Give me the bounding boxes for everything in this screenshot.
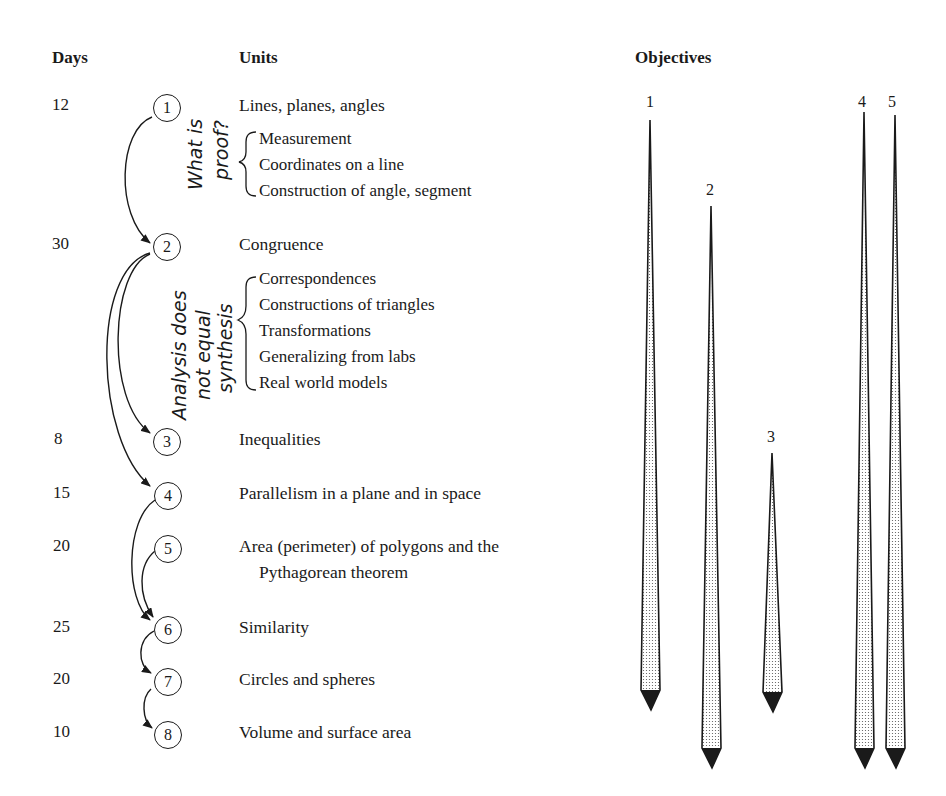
objective-wedge-5 <box>886 115 905 768</box>
objective-wedge-1 <box>641 120 660 710</box>
objective-wedge-4 <box>855 112 874 768</box>
objective-wedge-3 <box>763 453 782 712</box>
objective-wedges <box>0 0 946 796</box>
objective-wedge-2 <box>702 206 721 768</box>
